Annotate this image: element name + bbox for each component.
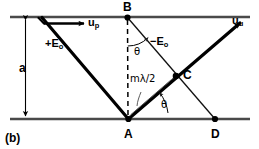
angle-label-theta-top: θ — [134, 47, 140, 57]
guide-width-label-a: a — [19, 62, 26, 74]
plus-Eo-subscript: o — [59, 42, 64, 51]
phase-velocity-label-u-p: up — [88, 17, 99, 29]
field-label-minus-Eo: −Eo — [150, 36, 168, 48]
waveguide-ray-diagram: B A C D up uu +Eo −Eo θ θ mλ/2 a (b) — [0, 0, 259, 149]
phase-front-dashed-line — [128, 20, 129, 116]
angle-label-theta-bottom: θ — [161, 100, 167, 110]
u-u-base: u — [232, 14, 239, 26]
field-label-plus-Eo: +Eo — [45, 38, 63, 50]
figure-caption: (b) — [5, 132, 20, 144]
vertex-dot-B — [124, 14, 130, 20]
point-label-A: A — [124, 128, 133, 140]
point-label-B: B — [123, 1, 132, 13]
waveguide-walls — [10, 17, 250, 119]
vertex-dot-D — [212, 116, 218, 122]
group-velocity-label-u-u: uu — [232, 15, 243, 27]
u-p-base: u — [88, 16, 95, 28]
u-u-subscript: u — [239, 19, 244, 28]
point-label-D: D — [211, 128, 220, 140]
point-label-C: C — [183, 69, 192, 81]
minus-Eo-subscript: o — [164, 40, 169, 49]
plus-Eo-base: +E — [45, 37, 59, 49]
path-difference-label: mλ/2 — [130, 74, 155, 84]
vertex-dot-A — [125, 116, 131, 122]
u-p-subscript: p — [95, 21, 100, 30]
path-difference-leader — [137, 92, 141, 106]
vertex-dot-C — [173, 73, 180, 80]
incident-ray-plus-Eo — [42, 18, 128, 120]
reflected-ray-minus-Eo — [128, 18, 216, 120]
minus-Eo-base: −E — [150, 35, 164, 47]
